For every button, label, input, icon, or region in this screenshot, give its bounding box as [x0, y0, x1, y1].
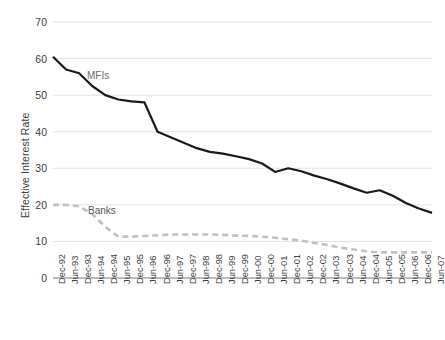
gridlines — [53, 22, 432, 278]
x-tick-label: Dec-96 — [162, 254, 172, 284]
x-tick-label: Dec-00 — [266, 254, 276, 284]
x-tick-label: Jun-99 — [227, 256, 237, 284]
y-tick-label: 70 — [21, 16, 47, 28]
x-tick-label: Jun-95 — [122, 256, 132, 284]
x-tick-label: Dec-04 — [371, 254, 381, 284]
x-tick-label: Dec-92 — [57, 254, 67, 284]
x-tick-label: Dec-01 — [292, 254, 302, 284]
interest-rate-line-chart: Effective Interest Rate 010203040506070 … — [0, 0, 445, 340]
x-tick-label: Dec-93 — [83, 254, 93, 284]
y-tick-label: 20 — [21, 199, 47, 211]
x-tick-label: Jun-93 — [70, 256, 80, 284]
y-tick-label: 0 — [21, 272, 47, 284]
x-tick-label: Jun-98 — [201, 256, 211, 284]
x-tick-label: Jun-04 — [358, 256, 368, 284]
y-tick-label: 60 — [21, 53, 47, 65]
x-tick-label: Dec-95 — [135, 254, 145, 284]
x-tick-label: Dec-97 — [188, 254, 198, 284]
x-tick-label: Jun-96 — [148, 256, 158, 284]
x-tick-label: Dec-94 — [109, 254, 119, 284]
x-tick-label: Dec-99 — [240, 254, 250, 284]
x-tick-label: Jun-06 — [410, 256, 420, 284]
y-axis-tick-labels: 010203040506070 — [19, 0, 47, 340]
x-tick-label: Dec-03 — [345, 254, 355, 284]
x-tick-label: Jun-94 — [96, 256, 106, 284]
x-tick-label: Dec-05 — [397, 254, 407, 284]
series-label-banks: Banks — [88, 205, 116, 216]
series-label-mfis: MFIs — [87, 70, 109, 81]
x-tick-label: Jun-05 — [384, 256, 394, 284]
y-tick-label: 50 — [21, 89, 47, 101]
x-tick-label: Dec-98 — [214, 254, 224, 284]
y-tick-label: 40 — [21, 126, 47, 138]
series-paths — [53, 57, 432, 253]
x-tick-label: Jun-07 — [436, 256, 445, 284]
x-tick-label: Jun-02 — [305, 256, 315, 284]
x-tick-label: Dec-02 — [318, 254, 328, 284]
series-line-mfis — [53, 57, 432, 213]
x-tick-label: Jun-00 — [253, 256, 263, 284]
x-tick-label: Jun-97 — [175, 256, 185, 284]
x-tick-label: Jun-01 — [279, 256, 289, 284]
y-tick-label: 30 — [21, 162, 47, 174]
x-tick-label: Jun-03 — [331, 256, 341, 284]
plot-area — [0, 0, 445, 340]
y-tick-label: 10 — [21, 235, 47, 247]
x-tick-label: Dec-06 — [423, 254, 433, 284]
